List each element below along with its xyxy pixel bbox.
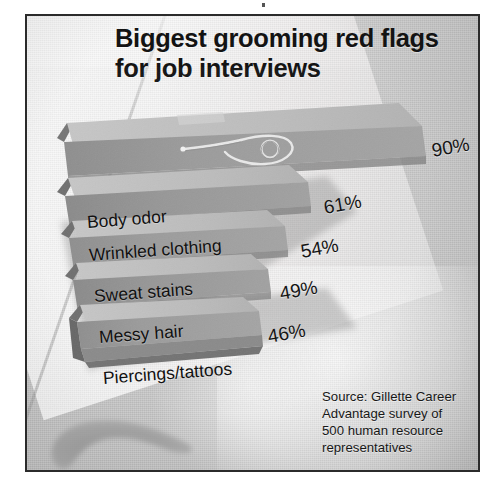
source-line-4: representatives: [322, 439, 477, 456]
source-line-3: 500 human resource: [322, 422, 477, 439]
scan-speck: [262, 3, 265, 7]
source-line-2: Advantage survey of: [322, 405, 477, 422]
infographic-root: Biggest grooming red flags for job inter…: [0, 0, 500, 485]
source-line-1: Source: Gillette Career: [322, 388, 477, 405]
infographic-frame: Biggest grooming red flags for job inter…: [25, 14, 480, 472]
source-attribution: Source: Gillette Career Advantage survey…: [322, 388, 477, 457]
